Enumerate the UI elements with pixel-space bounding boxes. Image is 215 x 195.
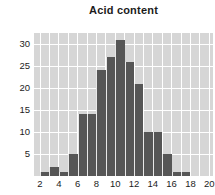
histogram-bar bbox=[181, 172, 190, 176]
histogram-bar bbox=[106, 57, 115, 176]
y-axis-tick-label: 20 bbox=[0, 82, 30, 93]
grid-vline bbox=[40, 33, 41, 176]
grid-vline bbox=[190, 33, 191, 176]
x-axis-tick-label: 6 bbox=[68, 178, 88, 189]
histogram-bar bbox=[40, 172, 49, 176]
x-axis-tick-label: 14 bbox=[143, 178, 163, 189]
x-axis-tick-label: 12 bbox=[124, 178, 144, 189]
histogram-bar bbox=[68, 154, 77, 176]
x-axis-tick-label: 18 bbox=[180, 178, 200, 189]
histogram-bar bbox=[49, 167, 58, 176]
x-axis-tick-label: 4 bbox=[49, 178, 69, 189]
grid-vline bbox=[209, 33, 210, 176]
x-axis-tick-label: 16 bbox=[162, 178, 182, 189]
x-axis-tick-label: 10 bbox=[105, 178, 125, 189]
chart-container: Acid content 2468101214161820 5101520253… bbox=[0, 0, 215, 195]
histogram-bar bbox=[162, 154, 171, 176]
grid-vline bbox=[181, 33, 182, 176]
grid-vline bbox=[49, 33, 50, 176]
plot-area bbox=[34, 33, 213, 176]
histogram-bar bbox=[125, 62, 134, 176]
histogram-bar bbox=[153, 132, 162, 176]
histogram-bar bbox=[87, 114, 96, 176]
histogram-bar bbox=[96, 70, 105, 176]
x-axis-tick-label: 2 bbox=[30, 178, 50, 189]
y-axis-tick-label: 5 bbox=[0, 148, 30, 159]
histogram-bar bbox=[115, 40, 124, 176]
x-axis-tick-label: 20 bbox=[199, 178, 215, 189]
y-axis-tick-label: 25 bbox=[0, 60, 30, 71]
grid-vline bbox=[58, 33, 59, 176]
histogram-bar bbox=[134, 84, 143, 176]
histogram-bar bbox=[143, 132, 152, 176]
x-axis-tick-label: 8 bbox=[86, 178, 106, 189]
y-axis-tick-label: 30 bbox=[0, 38, 30, 49]
y-axis-tick-label: 15 bbox=[0, 104, 30, 115]
chart-title: Acid content bbox=[34, 4, 213, 16]
histogram-bar bbox=[59, 172, 68, 176]
y-axis-tick-label: 10 bbox=[0, 126, 30, 137]
histogram-bar bbox=[78, 114, 87, 176]
grid-vline bbox=[199, 33, 200, 176]
histogram-bar bbox=[172, 172, 181, 176]
